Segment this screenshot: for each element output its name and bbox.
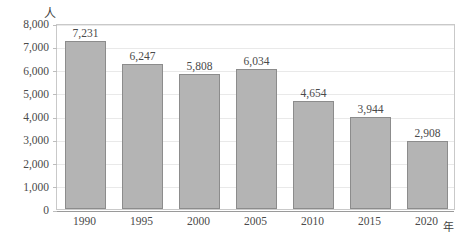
plot-area: 01,0002,0003,0004,0005,0006,0007,0008,00… <box>56 24 455 210</box>
y-axis-tick-mark <box>53 94 57 95</box>
y-axis-tick-label: 3,000 <box>1 136 57 148</box>
y-axis-tick-mark <box>53 71 57 72</box>
bar[interactable] <box>236 69 277 209</box>
x-axis-tick-label: 1995 <box>112 216 172 228</box>
bar-value-label: 4,654 <box>284 88 344 100</box>
x-axis-tick-label: 2005 <box>226 216 286 228</box>
bar-value-label: 2,908 <box>398 128 458 140</box>
y-axis-tick-label: 6,000 <box>1 66 57 78</box>
x-axis-tick-label: 2000 <box>169 216 229 228</box>
bar-value-label: 6,247 <box>113 51 173 63</box>
y-axis-tick-mark <box>53 25 57 26</box>
bar[interactable] <box>350 117 391 209</box>
x-axis-tick-label: 2015 <box>340 216 400 228</box>
y-axis-tick-mark <box>53 118 57 119</box>
bar-value-label: 5,808 <box>170 61 230 73</box>
bar[interactable] <box>179 74 220 209</box>
x-axis-tick-label: 2010 <box>283 216 343 228</box>
y-axis-tick-mark <box>53 164 57 165</box>
bar[interactable] <box>122 64 163 209</box>
x-axis-baseline <box>57 211 454 212</box>
bar[interactable] <box>407 141 448 209</box>
y-axis-tick-label: 7,000 <box>1 43 57 55</box>
y-axis-tick-mark <box>53 48 57 49</box>
gridline <box>57 48 454 49</box>
bar-chart: 人 01,0002,0003,0004,0005,0006,0007,0008,… <box>0 0 466 247</box>
y-axis-tick-label: 5,000 <box>1 89 57 101</box>
x-axis-tick-label: 2020 <box>397 216 457 228</box>
gridline <box>57 25 454 26</box>
y-axis-tick-mark <box>53 211 57 212</box>
y-axis-tick-label: 1,000 <box>1 182 57 194</box>
y-axis-tick-mark <box>53 187 57 188</box>
y-axis-tick-label: 8,000 <box>1 19 57 31</box>
bar-value-label: 7,231 <box>56 28 116 40</box>
y-axis-tick-label: 0 <box>1 205 57 217</box>
bar[interactable] <box>293 101 334 209</box>
bar-value-label: 3,944 <box>341 104 401 116</box>
y-axis-tick-label: 2,000 <box>1 159 57 171</box>
y-axis-tick-label: 4,000 <box>1 112 57 124</box>
bar-value-label: 6,034 <box>227 56 287 68</box>
x-axis-tick-label: 1990 <box>55 216 115 228</box>
y-axis-tick-mark <box>53 141 57 142</box>
bar[interactable] <box>65 41 106 209</box>
